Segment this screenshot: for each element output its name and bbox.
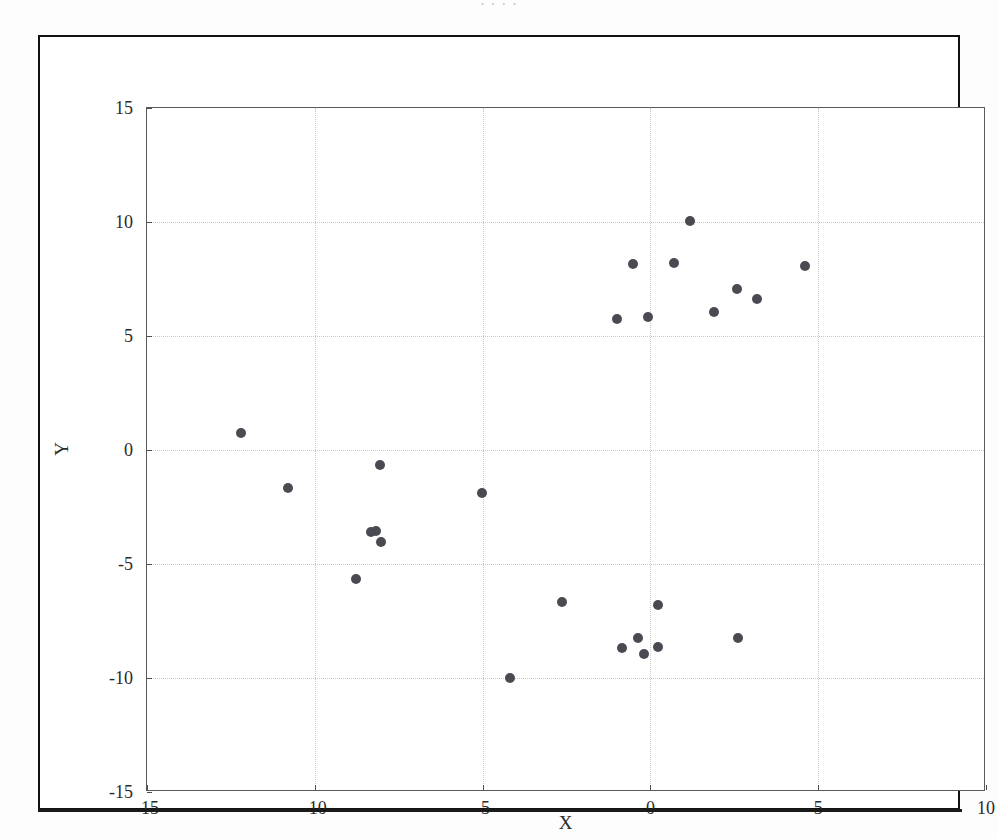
gridline-horizontal xyxy=(147,336,984,337)
scatter-point xyxy=(800,261,810,271)
scatter-point xyxy=(669,258,679,268)
y-axis-tick xyxy=(147,678,152,679)
gridline-horizontal xyxy=(147,678,984,679)
gridline-vertical xyxy=(818,108,819,790)
y-axis-tick xyxy=(147,450,152,451)
scatter-point xyxy=(366,527,376,537)
scatter-point xyxy=(653,642,663,652)
gridline-vertical xyxy=(315,108,316,790)
page-caption-strip: · · · · xyxy=(0,0,998,14)
y-axis-label: Y xyxy=(51,442,73,456)
x-axis-label: X xyxy=(146,812,985,834)
y-axis-tick xyxy=(147,564,152,565)
y-axis-tick-label: -5 xyxy=(118,554,133,575)
y-axis-tick-label: 15 xyxy=(115,98,133,119)
gridline-horizontal xyxy=(147,564,984,565)
y-axis-tick-label: -10 xyxy=(109,668,133,689)
scatter-point xyxy=(633,633,643,643)
scatter-point xyxy=(732,284,742,294)
gridline-horizontal xyxy=(147,222,984,223)
figure-root: · · · · -15-10-50510 -15-10-5051015 X Y xyxy=(0,0,998,839)
scatter-point xyxy=(505,673,515,683)
scatter-point xyxy=(375,460,385,470)
scatter-point xyxy=(685,216,695,226)
scatter-point xyxy=(376,537,386,547)
scatter-point xyxy=(236,428,246,438)
plot-area: -15-10-50510 -15-10-5051015 xyxy=(146,107,985,791)
y-axis-tick-label: 0 xyxy=(124,440,133,461)
x-axis-tick xyxy=(483,785,484,790)
x-axis-tick xyxy=(818,785,819,790)
gridline-vertical xyxy=(650,108,651,790)
scatter-point xyxy=(709,307,719,317)
y-axis-tick xyxy=(147,792,152,793)
x-axis-tick xyxy=(315,785,316,790)
x-axis-tick xyxy=(147,785,148,790)
y-axis-tick xyxy=(147,336,152,337)
scatter-point xyxy=(351,574,361,584)
scatter-point xyxy=(283,483,293,493)
scatter-point xyxy=(628,259,638,269)
scatter-point xyxy=(612,314,622,324)
gridline-horizontal xyxy=(147,450,984,451)
scatter-point xyxy=(733,633,743,643)
x-axis-tick xyxy=(650,785,651,790)
x-axis-tick xyxy=(986,785,987,790)
gridline-vertical xyxy=(483,108,484,790)
y-axis-tick-label: -15 xyxy=(109,782,133,803)
scatter-point xyxy=(477,488,487,498)
scatter-point xyxy=(752,294,762,304)
figure-frame: -15-10-50510 -15-10-5051015 X Y xyxy=(38,35,960,810)
y-axis-tick xyxy=(147,222,152,223)
y-axis-tick xyxy=(147,108,152,109)
y-axis-tick-label: 5 xyxy=(124,326,133,347)
scatter-point xyxy=(643,312,653,322)
scatter-point xyxy=(617,643,627,653)
y-axis-tick-label: 10 xyxy=(115,212,133,233)
scatter-point xyxy=(557,597,567,607)
scatter-point xyxy=(653,600,663,610)
scatter-point xyxy=(639,649,649,659)
